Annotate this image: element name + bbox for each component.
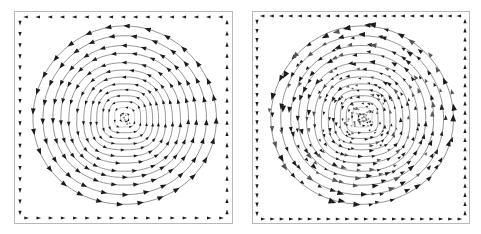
streamline-figure [0, 0, 481, 234]
core-marker [125, 115, 127, 117]
core-marker [129, 122, 131, 124]
core-marker [126, 123, 128, 125]
streamline-canvas [252, 11, 470, 224]
core-marker [368, 111, 370, 113]
core-marker [124, 119, 126, 121]
core-marker [347, 118, 349, 120]
core-marker [356, 113, 357, 114]
core-marker [123, 117, 125, 119]
streamline-canvas [14, 11, 233, 224]
core-marker [353, 112, 355, 114]
left-panel [14, 11, 233, 224]
core-marker [362, 120, 364, 122]
right-panel [252, 11, 470, 224]
core-marker [373, 110, 374, 111]
core-marker [371, 111, 372, 112]
core-marker [358, 109, 360, 111]
core-marker [350, 125, 352, 127]
core-marker [365, 120, 367, 122]
core-marker [361, 117, 363, 119]
core-marker [367, 118, 369, 120]
core-marker [359, 123, 361, 125]
core-marker [357, 113, 359, 115]
core-marker [365, 118, 366, 119]
core-marker [348, 120, 349, 121]
core-marker [372, 121, 374, 123]
core-marker [346, 117, 347, 118]
core-marker [355, 107, 357, 109]
core-marker [363, 116, 365, 118]
core-marker [122, 114, 123, 115]
core-marker [351, 113, 353, 115]
plot-frame [253, 12, 470, 224]
